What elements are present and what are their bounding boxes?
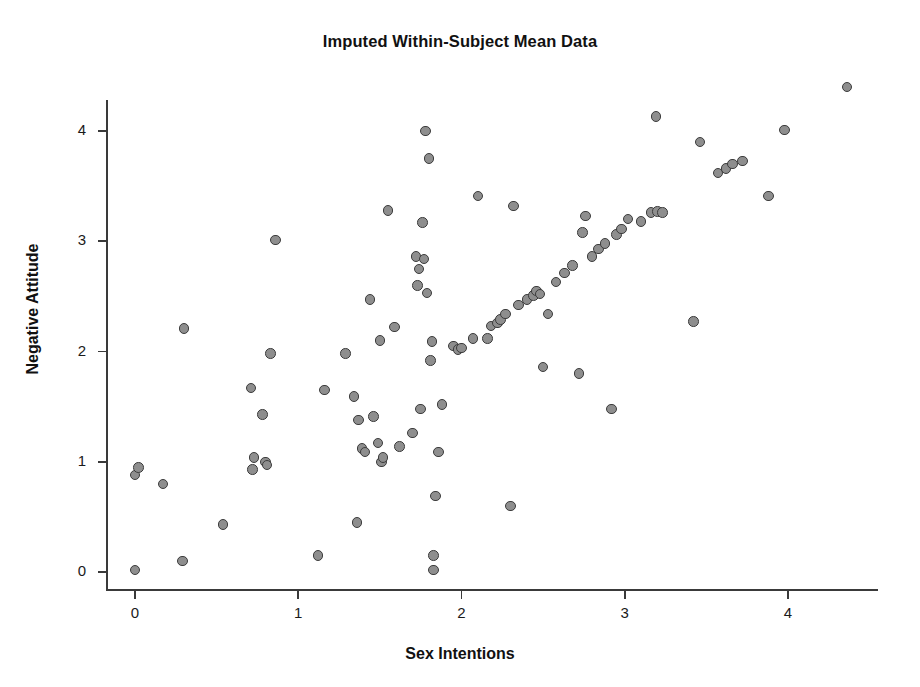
y-tick-mark xyxy=(98,351,106,353)
y-tick-label: 4 xyxy=(24,121,86,138)
data-point xyxy=(551,277,562,288)
data-point xyxy=(349,391,360,402)
y-tick-label: 2 xyxy=(24,342,86,359)
data-point xyxy=(414,264,425,275)
data-point xyxy=(313,550,324,561)
data-point xyxy=(353,415,364,426)
data-point xyxy=(482,333,493,344)
data-point xyxy=(389,322,400,333)
data-point xyxy=(412,280,423,291)
data-point xyxy=(424,153,435,164)
data-point xyxy=(270,235,281,246)
data-point xyxy=(505,501,516,512)
data-point xyxy=(430,491,441,502)
plot-area: 01234 01234 xyxy=(0,0,920,687)
data-point xyxy=(425,355,436,366)
data-point xyxy=(257,409,268,420)
data-point xyxy=(695,137,706,148)
data-point xyxy=(428,550,439,561)
data-point xyxy=(375,335,386,346)
x-tick-mark xyxy=(134,591,136,599)
x-tick-label: 3 xyxy=(605,604,645,621)
data-point xyxy=(394,441,405,452)
data-point xyxy=(419,254,430,265)
data-point xyxy=(340,348,351,359)
y-tick-label: 0 xyxy=(24,562,86,579)
x-tick-mark xyxy=(461,591,463,599)
x-tick-mark xyxy=(297,591,299,599)
y-axis-line xyxy=(106,100,108,590)
x-tick-label: 2 xyxy=(442,604,482,621)
data-point xyxy=(433,447,444,458)
data-point xyxy=(360,447,371,458)
data-point xyxy=(422,288,433,299)
data-point xyxy=(473,191,484,202)
data-point xyxy=(373,438,384,449)
data-point xyxy=(319,385,330,396)
y-tick-mark xyxy=(98,571,106,573)
x-tick-label: 0 xyxy=(115,604,155,621)
data-point xyxy=(538,362,549,373)
data-point xyxy=(265,348,276,359)
data-point xyxy=(407,428,418,439)
data-point xyxy=(262,460,273,471)
data-point xyxy=(500,309,511,320)
data-point xyxy=(249,452,260,463)
data-point xyxy=(378,452,389,463)
data-point xyxy=(218,519,229,530)
data-point xyxy=(567,260,578,271)
x-tick-label: 1 xyxy=(278,604,318,621)
data-point xyxy=(651,111,662,122)
y-tick-label: 1 xyxy=(24,452,86,469)
x-tick-label: 4 xyxy=(768,604,808,621)
y-tick-mark xyxy=(98,461,106,463)
data-point xyxy=(417,217,428,228)
data-point xyxy=(365,294,376,305)
data-point xyxy=(130,565,141,576)
data-point xyxy=(352,517,363,528)
data-point xyxy=(468,333,479,344)
data-point xyxy=(779,125,790,136)
x-tick-mark xyxy=(787,591,789,599)
data-point xyxy=(456,343,467,354)
data-point xyxy=(600,238,611,249)
data-point xyxy=(623,214,634,225)
data-point xyxy=(508,201,519,212)
data-point xyxy=(437,399,448,410)
data-point xyxy=(636,216,647,227)
data-point xyxy=(577,227,588,238)
data-point xyxy=(842,82,853,93)
data-point xyxy=(535,289,546,300)
data-point xyxy=(427,336,438,347)
data-point xyxy=(580,211,591,222)
scatter-plot-figure: Imputed Within-Subject Mean Data Negativ… xyxy=(0,0,920,687)
data-point xyxy=(688,316,699,327)
data-point xyxy=(574,368,585,379)
data-point xyxy=(177,556,188,567)
data-point xyxy=(606,404,617,415)
data-point xyxy=(247,464,258,475)
data-point xyxy=(420,126,431,137)
data-point xyxy=(737,156,748,167)
data-point xyxy=(763,191,774,202)
data-point xyxy=(657,207,668,218)
y-tick-mark xyxy=(98,240,106,242)
data-point xyxy=(246,383,257,394)
data-point xyxy=(616,224,627,235)
data-point xyxy=(368,411,379,422)
data-point xyxy=(543,309,554,320)
data-point xyxy=(428,565,439,576)
data-point xyxy=(383,205,394,216)
data-point xyxy=(415,404,426,415)
data-point xyxy=(179,323,190,334)
y-tick-label: 3 xyxy=(24,231,86,248)
data-point xyxy=(158,479,169,490)
data-point xyxy=(133,462,144,473)
y-tick-mark xyxy=(98,130,106,132)
x-tick-mark xyxy=(624,591,626,599)
x-axis-line xyxy=(106,589,878,591)
